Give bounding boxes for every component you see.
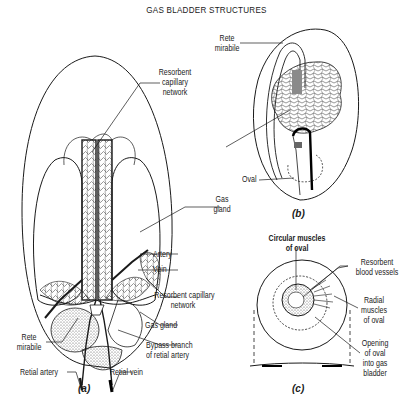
label-line: bladder — [359, 368, 392, 378]
label-line: Resorbent capillary — [154, 290, 211, 300]
label-line: network — [155, 87, 196, 97]
label-retial-vein: Retial vein — [110, 367, 143, 377]
panel-c-label: (c) — [292, 383, 304, 394]
label-vein: Vein — [153, 264, 167, 274]
label-line: mirabile — [17, 342, 42, 352]
label-line: network — [154, 300, 211, 310]
label-line: capillary — [155, 77, 196, 87]
label-resorbent-blood-vessels: Resorbent blood vessels — [353, 257, 401, 277]
label-line: Radial — [359, 295, 389, 305]
diagram-drawing — [0, 0, 413, 411]
label-a-resorbent-capillary-network-bottom: Resorbent capillary network — [154, 290, 211, 310]
label-oval: Oval — [242, 174, 256, 184]
label-line: Opening — [359, 338, 392, 348]
label-line: Resorbent — [353, 257, 401, 267]
label-line: mirabile — [215, 43, 240, 53]
label-bypass-branch: Bypass branch of retial artery — [146, 340, 193, 360]
label-gas-gland-shared: Gas gland — [212, 194, 232, 214]
label-line: blood vessels — [353, 267, 401, 277]
label-line: Circular muscles — [268, 233, 325, 243]
label-circular-muscles: Circular muscles of oval — [268, 233, 325, 253]
label-line: gland — [212, 204, 232, 214]
panel-a-label: (a) — [78, 383, 90, 394]
panel-c-drawing — [250, 248, 360, 366]
label-line: of oval — [268, 243, 325, 253]
label-line: of retial artery — [146, 350, 193, 360]
label-opening-of-oval: Opening of oval into gas bladder — [359, 338, 392, 378]
label-line: Rete — [17, 332, 42, 342]
label-line: Bypass branch — [146, 340, 193, 350]
label-line: muscles — [359, 305, 389, 315]
label-line: Rete — [215, 33, 240, 43]
label-line: into gas — [359, 358, 392, 368]
label-artery: Artery — [153, 249, 172, 259]
panel-b-label: (b) — [292, 208, 305, 219]
label-line: of oval — [359, 315, 389, 325]
label-retial-artery: Retial artery — [20, 367, 58, 377]
label-a-rete-mirabile: Rete mirabile — [17, 332, 42, 352]
label-line: Gas — [212, 194, 232, 204]
label-a-resorbent-capillary-network-top: Resorbent capillary network — [155, 67, 196, 97]
label-line: Resorbent — [155, 67, 196, 77]
label-b-rete-mirabile: Rete mirabile — [215, 33, 240, 53]
label-line: of oval — [359, 348, 392, 358]
label-a-gas-gland: Gas gland — [145, 320, 177, 330]
label-radial-muscles: Radial muscles of oval — [359, 295, 389, 325]
